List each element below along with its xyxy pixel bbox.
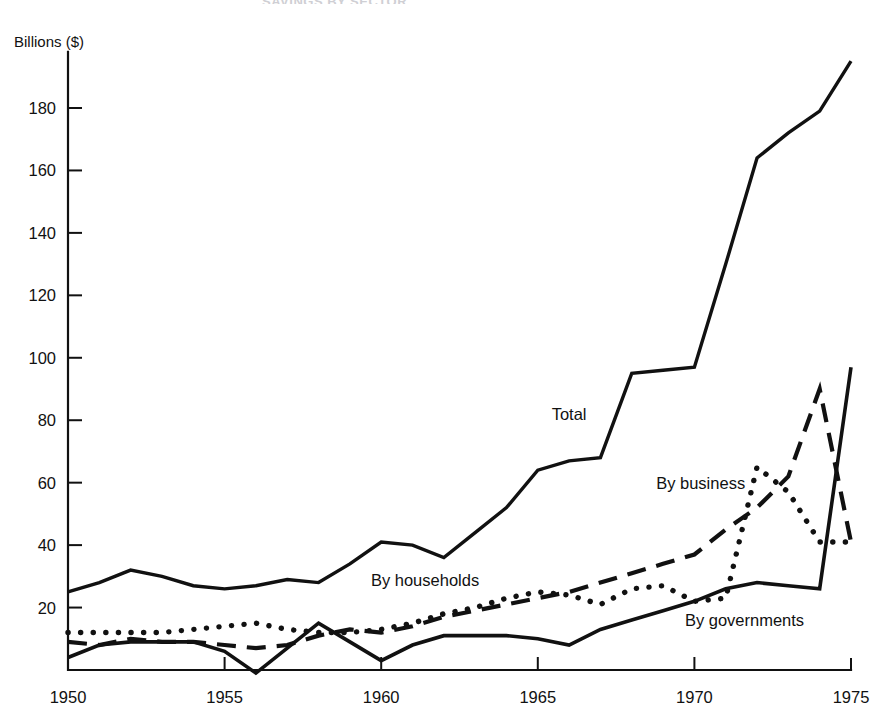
- y-axis-tick-label: 100: [28, 349, 56, 367]
- x-axis-tick-label: 1975: [833, 688, 870, 706]
- series-label-by-households: By households: [371, 571, 479, 589]
- y-axis-tick-label: 140: [28, 224, 56, 242]
- x-axis-tick-label: 1960: [363, 688, 400, 706]
- x-axis-tick-label: 1965: [519, 688, 556, 706]
- series-line-by-business: [68, 389, 851, 648]
- series-line-total: [68, 61, 851, 592]
- chart-plot: 2040608010012014016018019501955196019651…: [0, 0, 891, 725]
- y-axis-tick-label: 180: [28, 99, 56, 117]
- y-axis-tick-label: 160: [28, 161, 56, 179]
- x-axis-tick-label: 1950: [50, 688, 87, 706]
- y-axis-tick-label: 120: [28, 286, 56, 304]
- x-axis-tick-label: 1970: [676, 688, 713, 706]
- series-label-by-business: By business: [656, 474, 745, 492]
- y-axis-tick-label: 80: [38, 411, 56, 429]
- x-axis-tick-label: 1955: [206, 688, 243, 706]
- y-axis-tick-label: 40: [38, 536, 56, 554]
- y-axis-tick-label: 20: [38, 599, 56, 617]
- series-label-by-governments: By governments: [685, 611, 804, 629]
- series-label-total: Total: [552, 405, 587, 423]
- y-axis-tick-label: 60: [38, 474, 56, 492]
- chart-figure: SAVINGS BY SECTOR Billions ($) 204060801…: [0, 0, 891, 725]
